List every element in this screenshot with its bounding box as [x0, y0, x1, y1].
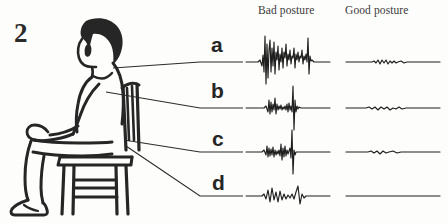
leader-line-a	[113, 62, 243, 68]
chair-front-leg-inner	[73, 166, 74, 214]
trace-b-good-posture	[346, 107, 440, 110]
chair-rear-leg-inner	[116, 166, 117, 214]
trace-b-bad-posture	[246, 86, 330, 130]
leader-line-c	[124, 140, 243, 152]
thigh-top-outline	[33, 140, 112, 143]
trace-d-bad-posture	[246, 186, 330, 204]
chair-back-slat-2	[132, 86, 134, 140]
trace-c-good-posture	[346, 151, 440, 154]
shin-back-outline	[41, 156, 44, 203]
shin-front-outline	[25, 141, 31, 200]
collar-line	[93, 73, 112, 78]
trace-c-bad-posture	[246, 130, 330, 174]
chair-rear-leg	[126, 166, 128, 214]
leader-line-d	[126, 146, 243, 196]
trace-a-bad-posture	[246, 36, 330, 84]
chair-back-right-post	[137, 84, 139, 150]
figure-container: 2 Bad posture Good posture a b c d	[0, 0, 448, 223]
trace-row-c	[246, 130, 440, 174]
trace-row-d	[246, 186, 440, 204]
seated-person-illustration	[11, 18, 139, 215]
hand-outline	[27, 125, 48, 140]
chair-front-leg	[62, 166, 64, 214]
figure-artwork	[0, 0, 448, 223]
sideburn-shape	[85, 44, 92, 57]
head-hair-shape	[81, 18, 123, 64]
trace-row-b	[246, 86, 440, 130]
trace-row-a	[246, 36, 440, 84]
shoe-instep-line	[24, 205, 38, 211]
trace-a-good-posture	[346, 60, 440, 64]
